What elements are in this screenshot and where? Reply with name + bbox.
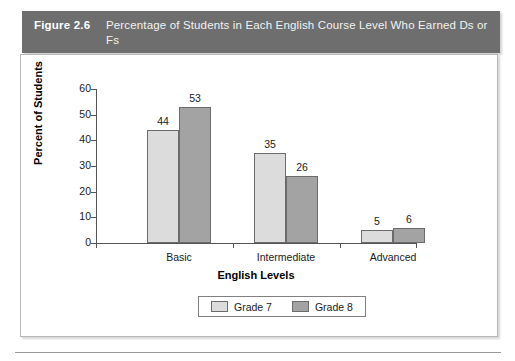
figure-title-banner: Figure 2.6 Percentage of Students in Eac… bbox=[22, 11, 500, 53]
y-axis-tick-label: 20 bbox=[45, 185, 91, 197]
x-axis-tick bbox=[340, 243, 341, 248]
legend-swatch-icon bbox=[292, 301, 309, 312]
x-axis-tick bbox=[233, 243, 234, 248]
legend-label: Grade 8 bbox=[315, 301, 353, 313]
bar-value-label: 53 bbox=[175, 92, 215, 104]
bar-value-label: 26 bbox=[282, 161, 322, 173]
bar-value-label: 6 bbox=[389, 213, 429, 225]
y-axis-tick-label-wrap: 20 bbox=[37, 192, 91, 193]
y-axis-tick-label: 40 bbox=[45, 133, 91, 145]
figure-caption-text: Percentage of Students in Each English C… bbox=[106, 18, 492, 47]
y-axis-line bbox=[96, 89, 97, 244]
y-axis-tick-label-wrap: 10 bbox=[37, 217, 91, 218]
y-axis-tick-label: 30 bbox=[45, 159, 91, 171]
y-axis-tick bbox=[91, 192, 96, 193]
x-axis-line bbox=[96, 243, 416, 244]
y-axis-tick-label: 60 bbox=[45, 82, 91, 94]
bar-intermediate-grade-8 bbox=[286, 176, 318, 243]
x-axis-tick bbox=[96, 243, 97, 248]
bar-chart-plot-area: Percent of Students English Levels 01020… bbox=[21, 55, 499, 338]
y-axis-tick bbox=[91, 140, 96, 141]
y-axis-tick bbox=[91, 217, 96, 218]
y-axis-tick bbox=[91, 166, 96, 167]
legend-entry-grade-8[interactable]: Grade 8 bbox=[292, 301, 353, 313]
x-axis-category-intermediate: Intermediate bbox=[231, 251, 341, 263]
figure-number-label: Figure 2.6 bbox=[34, 18, 90, 32]
bar-value-label: 35 bbox=[250, 138, 290, 150]
chart-frame: Percent of Students English Levels 01020… bbox=[20, 54, 498, 337]
y-axis-tick bbox=[91, 89, 96, 90]
y-axis-tick-label: 50 bbox=[45, 108, 91, 120]
y-axis-tick bbox=[91, 115, 96, 116]
y-axis-tick-label: 0 bbox=[45, 236, 91, 248]
y-axis-tick-label-wrap: 50 bbox=[37, 115, 91, 116]
bar-advanced-grade-7 bbox=[361, 230, 393, 243]
y-axis-tick-label-wrap: 40 bbox=[37, 140, 91, 141]
legend-entry-grade-7[interactable]: Grade 7 bbox=[211, 301, 272, 313]
bar-basic-grade-8 bbox=[179, 107, 211, 243]
y-axis-tick-label: 10 bbox=[45, 210, 91, 222]
y-axis-tick-label-wrap: 0 bbox=[37, 243, 91, 244]
legend-swatch-icon bbox=[211, 301, 228, 312]
legend-label: Grade 7 bbox=[234, 301, 272, 313]
x-axis-tick bbox=[416, 243, 417, 248]
y-axis-title: Percent of Students bbox=[32, 48, 44, 178]
bar-basic-grade-7 bbox=[147, 130, 179, 243]
y-axis-tick-label-wrap: 30 bbox=[37, 166, 91, 167]
chart-legend: Grade 7Grade 8 bbox=[198, 296, 366, 317]
y-axis-tick-label-wrap: 60 bbox=[37, 89, 91, 90]
x-axis-category-advanced: Advanced bbox=[338, 251, 448, 263]
x-axis-title: English Levels bbox=[96, 269, 416, 281]
page-divider-rule bbox=[15, 352, 501, 353]
bar-value-label: 44 bbox=[143, 115, 183, 127]
x-axis-category-basic: Basic bbox=[124, 251, 234, 263]
bar-advanced-grade-8 bbox=[393, 228, 425, 243]
figure-title-inner: Figure 2.6 Percentage of Students in Eac… bbox=[34, 18, 492, 47]
